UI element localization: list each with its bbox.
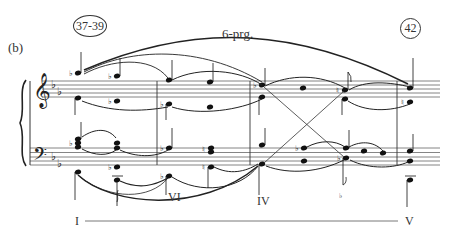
measure-number-start: 37-39 xyxy=(73,15,107,37)
svg-text:♭: ♭ xyxy=(108,163,112,172)
progression-label: 6-prg. xyxy=(222,26,253,42)
key-signature-bass: ♭ ♭ xyxy=(51,150,62,170)
svg-text:♭: ♭ xyxy=(57,85,62,98)
svg-text:♭: ♭ xyxy=(51,78,56,91)
svg-text:♭: ♭ xyxy=(295,144,299,153)
part-label: (b) xyxy=(8,40,23,56)
svg-text:♭: ♭ xyxy=(339,192,342,200)
svg-text:♮: ♮ xyxy=(202,163,205,172)
svg-text:♭: ♭ xyxy=(69,69,73,78)
roman-numeral-IV: IV xyxy=(257,194,270,209)
svg-text:♭: ♭ xyxy=(253,81,257,90)
roman-numeral-V: V xyxy=(405,214,414,229)
svg-text:♭: ♭ xyxy=(160,172,164,181)
roman-numeral-I: I xyxy=(75,214,79,229)
measure-number-end: 42 xyxy=(400,18,421,39)
svg-text:♭: ♭ xyxy=(57,157,62,170)
svg-text:♭: ♭ xyxy=(69,139,73,148)
treble-clef-icon: 𝄞 xyxy=(33,72,51,109)
svg-text:♭: ♭ xyxy=(108,97,112,106)
slurs xyxy=(78,37,410,202)
svg-text:♭: ♭ xyxy=(160,144,164,153)
svg-text:♮: ♮ xyxy=(336,86,339,95)
svg-text:♭: ♭ xyxy=(108,72,112,81)
svg-text:♭: ♭ xyxy=(51,150,56,163)
svg-text:♮: ♮ xyxy=(401,98,404,107)
roman-numeral-VI: VI xyxy=(168,190,181,205)
treble-staff xyxy=(42,81,440,97)
voice-exchange-lines xyxy=(264,87,344,163)
bass-clef-icon: 𝄢 xyxy=(33,144,47,169)
bass-staff xyxy=(30,148,440,165)
brace-icon xyxy=(20,80,26,166)
svg-text:♮: ♮ xyxy=(202,145,205,154)
